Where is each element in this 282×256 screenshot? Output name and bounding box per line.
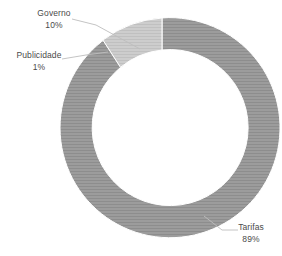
slice-label-publicidade-name: Publicidade [2,50,76,62]
slice-label-governo-name: Governo [18,8,90,20]
slice-label-tarifas-name: Tarifas [226,222,276,234]
slice-label-governo-value: 10% [18,20,90,32]
slice-label-publicidade: Publicidade 1% [2,50,76,73]
slice-label-publicidade-value: 1% [2,62,76,74]
donut-slice-tarifas [60,18,280,238]
donut-chart-figure: Governo 10% Publicidade 1% Tarifas 89% [0,0,282,256]
slice-label-tarifas-value: 89% [226,234,276,246]
slice-label-governo: Governo 10% [18,8,90,31]
donut-chart-canvas [0,0,282,256]
slice-label-tarifas: Tarifas 89% [226,222,276,245]
